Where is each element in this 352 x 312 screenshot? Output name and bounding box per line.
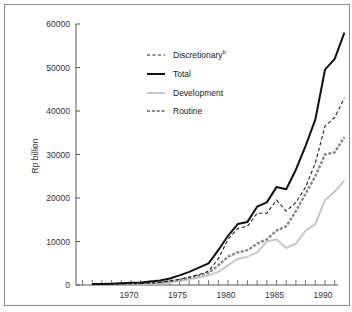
y-tick-label: 20000 [46,193,70,203]
y-tick-label: 10000 [46,237,70,247]
x-tick-label: 1975 [168,290,187,300]
legend-label-discretionary: Discretionaryb [173,49,227,60]
y-axis-label: Rp billion [30,138,40,173]
legend-label-total: Total [173,69,191,79]
y-tick-label: 30000 [46,150,70,160]
y-tick-label: 0 [65,280,70,290]
series-development [92,181,344,285]
x-tick-label: 1970 [120,290,139,300]
axes: 0100002000030000400005000060000197019751… [46,19,338,300]
x-tick-label: 1985 [265,290,284,300]
x-tick-label: 1990 [314,290,333,300]
plot-lines [92,33,344,285]
y-tick-label: 60000 [46,19,70,29]
series-routine [92,137,344,284]
legend-label-development: Development [173,88,224,98]
x-tick-label: 1980 [217,290,236,300]
line-chart: 0100002000030000400005000060000197019751… [0,0,352,312]
series-total [92,33,344,284]
y-tick-label: 40000 [46,106,70,116]
y-tick-label: 50000 [46,63,70,73]
legend: Discretionaryb Total Development Routine [147,49,227,116]
legend-label-routine: Routine [173,106,203,116]
